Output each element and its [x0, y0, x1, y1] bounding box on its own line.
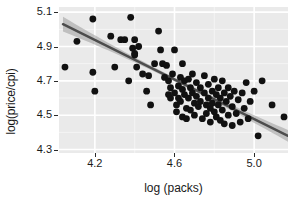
x-tick-label: 4.2 — [80, 158, 110, 169]
y-tick-mark — [54, 150, 58, 151]
y-tick-mark — [54, 47, 58, 48]
x-tick-mark — [95, 153, 96, 157]
scatter-plot-figure: log(price/cpi) log (packs) 4.34.54.74.95… — [0, 0, 296, 203]
y-tick-label: 4.5 — [24, 109, 52, 120]
y-tick-label: 4.9 — [24, 41, 52, 52]
plot-canvas — [59, 7, 288, 153]
y-tick-mark — [54, 12, 58, 13]
y-tick-mark — [54, 115, 58, 116]
y-tick-label: 5.1 — [24, 6, 52, 17]
x-axis-title: log (packs) — [59, 178, 288, 198]
x-tick-label: 5.0 — [239, 158, 269, 169]
x-axis-tick-labels: 4.24.65.0 — [0, 158, 296, 172]
y-tick-label: 4.7 — [24, 75, 52, 86]
x-tick-mark — [174, 153, 175, 157]
y-tick-label: 4.3 — [24, 144, 52, 155]
x-tick-label: 4.6 — [159, 158, 189, 169]
y-axis-title: log(price/cpi) — [0, 0, 22, 203]
y-axis-tick-labels: 4.34.54.74.95.1 — [22, 0, 52, 203]
plot-panel — [59, 7, 288, 153]
y-tick-mark — [54, 81, 58, 82]
x-tick-mark — [254, 153, 255, 157]
